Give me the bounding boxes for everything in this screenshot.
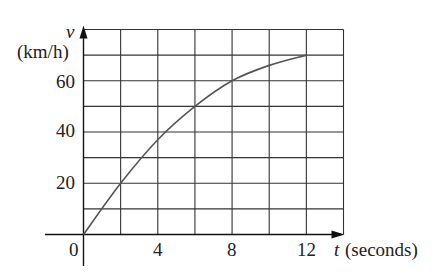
x-axis-arrow-icon <box>332 231 345 239</box>
y-axis-arrow-icon <box>80 26 88 39</box>
x-tick-4: 4 <box>153 240 163 259</box>
y-axis-variable: v <box>66 22 74 41</box>
y-tick-20: 20 <box>56 173 75 192</box>
y-axis-unit: (km/h) <box>17 42 69 61</box>
y-tick-60: 60 <box>56 72 75 91</box>
y-tick-40: 40 <box>56 121 75 140</box>
chart-grid <box>84 30 344 235</box>
origin-label: 0 <box>69 240 79 259</box>
x-tick-8: 8 <box>227 240 237 259</box>
x-tick-12: 12 <box>297 240 316 259</box>
x-axis-unit: (seconds) <box>345 240 418 259</box>
x-axis-variable: t <box>334 240 339 259</box>
